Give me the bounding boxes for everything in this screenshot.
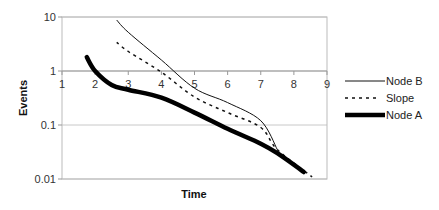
legend-item-slope: Slope: [345, 92, 414, 104]
y-tick-label: 0.01: [35, 173, 56, 185]
legend-label: Slope: [386, 92, 414, 104]
x-axis-title: Time: [181, 188, 206, 200]
gridlines: [62, 17, 327, 179]
x-tick-label: 2: [92, 78, 98, 90]
legend-item-node-a: Node A: [345, 109, 423, 121]
legend-label: Node A: [386, 109, 423, 121]
x-tick-label: 1: [59, 78, 65, 90]
legend-label: Node B: [386, 75, 423, 87]
y-tick-label: 10: [44, 11, 56, 23]
y-tick-label: 0.1: [41, 119, 56, 131]
legend-item-node-b: Node B: [345, 75, 423, 87]
x-tick-label: 6: [225, 78, 231, 90]
x-tick-label: 7: [258, 78, 264, 90]
series-node-a: [87, 57, 304, 172]
x-tick-label: 4: [158, 78, 164, 90]
x-tick-label: 8: [291, 78, 297, 90]
x-tick-label: 9: [324, 78, 330, 90]
plot-area: [62, 17, 327, 179]
y-axis-title: Events: [17, 80, 29, 116]
data-series: [87, 20, 312, 177]
legend: Node B Slope Node A: [345, 75, 423, 121]
y-axis-ticks: 1010.10.01: [35, 11, 62, 185]
line-chart: 1010.10.01 123456789 Time Events Node B …: [0, 0, 439, 210]
y-tick-label: 1: [50, 65, 56, 77]
